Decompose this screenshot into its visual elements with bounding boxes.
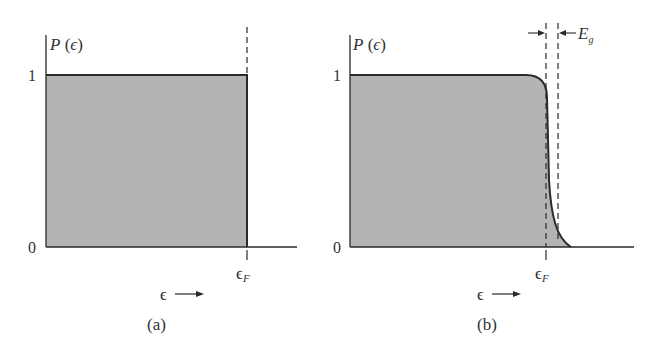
arrow-right-icon bbox=[175, 291, 204, 297]
x-axis-label-a: ϵ bbox=[160, 285, 167, 304]
panel-a: P (ϵ) 1 0 ϵF ϵ (a) bbox=[28, 27, 297, 334]
y-tick-1-b: 1 bbox=[333, 67, 341, 84]
gap-arrow-left-icon bbox=[528, 30, 545, 36]
occupied-region-a bbox=[46, 75, 247, 247]
occupied-region-b bbox=[350, 75, 571, 247]
y-tick-1-a: 1 bbox=[28, 67, 36, 84]
fermi-label-b: ϵF bbox=[535, 264, 549, 284]
panel-label-b: (b) bbox=[477, 315, 497, 334]
y-axis-label-a: P (ϵ) bbox=[49, 35, 83, 54]
y-tick-0-a: 0 bbox=[28, 239, 36, 256]
fermi-label-a: ϵF bbox=[236, 264, 250, 284]
gap-arrow-right-icon bbox=[559, 30, 576, 36]
y-tick-0-b: 0 bbox=[333, 239, 341, 256]
panel-b: Eg P (ϵ) 1 0 ϵF ϵ (b) bbox=[333, 23, 634, 334]
panel-label-a: (a) bbox=[147, 315, 166, 334]
figure: P (ϵ) 1 0 ϵF ϵ (a) Eg P (ϵ) 1 0 ϵF ϵ bbox=[0, 0, 657, 353]
y-axis-label-b: P (ϵ) bbox=[352, 35, 386, 54]
x-axis-label-b: ϵ bbox=[477, 285, 484, 304]
gap-label-eg: Eg bbox=[577, 24, 593, 45]
arrow-right-icon bbox=[492, 291, 521, 297]
